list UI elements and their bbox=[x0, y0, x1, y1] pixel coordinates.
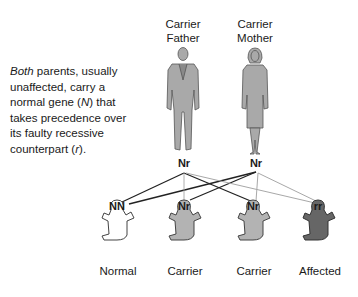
child-label-carrier-2: Carrier bbox=[219, 265, 289, 277]
child-genotype-3: Nr bbox=[233, 200, 273, 212]
father-figure-icon bbox=[167, 48, 199, 151]
child-label-normal: Normal bbox=[83, 265, 153, 277]
mother-genotype: Nr bbox=[236, 157, 276, 169]
child-label-affected: Affected bbox=[285, 265, 355, 277]
child-genotype-1: NN bbox=[97, 200, 137, 212]
father-genotype: Nr bbox=[164, 157, 204, 169]
child-genotype-4: rr bbox=[298, 200, 338, 212]
child-genotype-2: Nr bbox=[164, 200, 204, 212]
inheritance-diagram bbox=[0, 0, 358, 297]
child-label-carrier-1: Carrier bbox=[150, 265, 220, 277]
mother-figure-icon bbox=[242, 48, 268, 154]
